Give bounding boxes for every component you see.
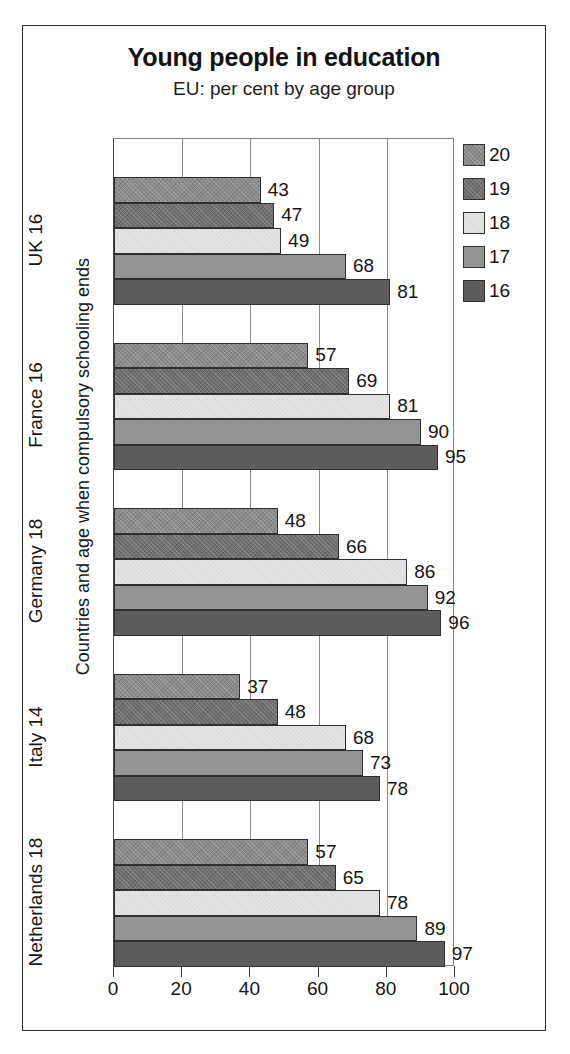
bar-20[interactable] — [114, 839, 308, 865]
x-tick-100 — [454, 966, 455, 977]
legend-item-18[interactable]: 18 — [463, 206, 543, 240]
bar-18[interactable] — [114, 228, 281, 254]
bar-group: 4866869296 — [114, 470, 453, 636]
bar-19[interactable] — [114, 699, 278, 725]
bar-17[interactable] — [114, 750, 363, 776]
bar-row: 48 — [114, 699, 453, 725]
bar-16[interactable] — [114, 279, 390, 305]
bar-group: 3748687378 — [114, 636, 453, 802]
bar-value-label: 43 — [261, 179, 289, 201]
chart-title: Young people in education — [23, 43, 545, 72]
bar-19[interactable] — [114, 534, 339, 560]
bar-group: 4347496881 — [114, 139, 453, 305]
bar-row: 65 — [114, 865, 453, 891]
legend-label-19: 19 — [489, 178, 510, 200]
legend-swatch-17 — [463, 246, 485, 268]
bar-row: 48 — [114, 508, 453, 534]
bar-value-label: 57 — [308, 841, 336, 863]
x-tick-label-80: 80 — [375, 978, 396, 1000]
bar-group: 5769819095 — [114, 305, 453, 471]
bar-value-label: 66 — [339, 536, 367, 558]
bar-20[interactable] — [114, 343, 308, 369]
x-tick-label-100: 100 — [438, 978, 470, 1000]
bar-row: 92 — [114, 585, 453, 611]
bar-18[interactable] — [114, 725, 346, 751]
bar-19[interactable] — [114, 865, 336, 891]
bar-row: 49 — [114, 228, 453, 254]
x-tick-label-40: 40 — [239, 978, 260, 1000]
bar-row: 73 — [114, 750, 453, 776]
bar-value-label: 48 — [278, 510, 306, 532]
bar-row: 69 — [114, 368, 453, 394]
bar-value-label: 57 — [308, 344, 336, 366]
bar-20[interactable] — [114, 674, 240, 700]
bar-value-label: 89 — [417, 918, 445, 940]
bar-18[interactable] — [114, 890, 380, 916]
legend-label-18: 18 — [489, 212, 510, 234]
chart-legend: 2019181716 — [463, 138, 543, 308]
bar-17[interactable] — [114, 419, 421, 445]
legend-item-17[interactable]: 17 — [463, 240, 543, 274]
bar-17[interactable] — [114, 916, 417, 942]
legend-swatch-18 — [463, 212, 485, 234]
bar-20[interactable] — [114, 508, 278, 534]
x-axis: 020406080100 — [113, 966, 454, 1000]
bar-value-label: 73 — [363, 752, 391, 774]
bar-16[interactable] — [114, 776, 380, 802]
bar-17[interactable] — [114, 585, 428, 611]
x-tick-label-60: 60 — [307, 978, 328, 1000]
legend-swatch-20 — [463, 144, 485, 166]
legend-swatch-19 — [463, 178, 485, 200]
bar-value-label: 48 — [278, 701, 306, 723]
bar-value-label: 68 — [346, 727, 374, 749]
bar-19[interactable] — [114, 203, 274, 229]
bar-value-label: 90 — [421, 421, 449, 443]
bar-row: 78 — [114, 776, 453, 802]
x-tick-label-0: 0 — [108, 978, 119, 1000]
bar-row: 43 — [114, 177, 453, 203]
bar-row: 97 — [114, 941, 453, 967]
bar-row: 57 — [114, 343, 453, 369]
legend-item-16[interactable]: 16 — [463, 274, 543, 308]
bar-row: 89 — [114, 916, 453, 942]
x-tick-80 — [386, 966, 387, 977]
bar-value-label: 92 — [428, 587, 456, 609]
bar-16[interactable] — [114, 941, 445, 967]
bar-20[interactable] — [114, 177, 261, 203]
bar-19[interactable] — [114, 368, 349, 394]
x-tick-60 — [318, 966, 319, 977]
bar-row: 37 — [114, 674, 453, 700]
bar-group: 5765788997 — [114, 801, 453, 967]
bar-value-label: 81 — [390, 395, 418, 417]
bar-value-label: 86 — [407, 561, 435, 583]
bar-18[interactable] — [114, 559, 407, 585]
legend-item-19[interactable]: 19 — [463, 172, 543, 206]
chart-subtitle: EU: per cent by age group — [23, 78, 545, 100]
bar-row: 66 — [114, 534, 453, 560]
bar-row: 90 — [114, 419, 453, 445]
bar-row: 95 — [114, 445, 453, 471]
x-tick-40 — [249, 966, 250, 977]
x-tick-label-20: 20 — [171, 978, 192, 1000]
legend-label-20: 20 — [489, 144, 510, 166]
bar-18[interactable] — [114, 394, 390, 420]
legend-label-16: 16 — [489, 280, 510, 302]
bar-value-label: 95 — [438, 446, 466, 468]
y-axis-title: Countries and age when compulsory school… — [73, 157, 94, 777]
bar-16[interactable] — [114, 610, 441, 636]
legend-item-20[interactable]: 20 — [463, 138, 543, 172]
bar-row: 86 — [114, 559, 453, 585]
bar-value-label: 65 — [336, 867, 364, 889]
bar-row: 47 — [114, 203, 453, 229]
bar-value-label: 68 — [346, 255, 374, 277]
bar-row: 68 — [114, 254, 453, 280]
legend-label-17: 17 — [489, 246, 510, 268]
bar-17[interactable] — [114, 254, 346, 280]
legend-swatch-16 — [463, 280, 485, 302]
bar-16[interactable] — [114, 445, 438, 471]
bar-row: 81 — [114, 279, 453, 305]
bar-value-label: 96 — [441, 612, 469, 634]
bar-value-label: 49 — [281, 230, 309, 252]
x-tick-20 — [181, 966, 182, 977]
bar-value-label: 81 — [390, 281, 418, 303]
